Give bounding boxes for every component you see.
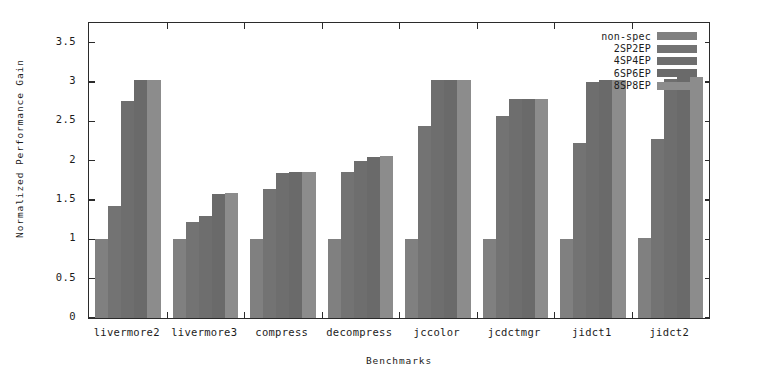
bar (664, 79, 677, 318)
y-tick-label: 2.5 (20, 113, 76, 125)
bar (483, 239, 496, 318)
y-tick-mark (705, 160, 709, 161)
legend-label: 2SP2EP (614, 43, 651, 54)
chart-legend: non-spec2SP2EP4SP4EP6SP6EP8SP8EP (597, 28, 701, 94)
x-tick-mark (167, 23, 168, 29)
legend-swatch (657, 45, 697, 53)
bar (509, 99, 522, 318)
y-tick-mark (89, 160, 95, 161)
legend-swatch (657, 32, 697, 40)
x-tick-mark (477, 23, 478, 29)
y-tick-mark (89, 81, 95, 82)
y-tick-mark (89, 199, 95, 200)
legend-swatch (657, 57, 697, 65)
bar (405, 239, 418, 318)
bar-group (405, 23, 470, 318)
bar (289, 172, 302, 318)
bar (276, 173, 289, 318)
y-tick-mark (705, 81, 709, 82)
x-tick-label: livermore2 (94, 326, 160, 338)
bar (444, 80, 457, 318)
y-tick-label: 1 (20, 231, 76, 243)
x-tick-mark (322, 23, 323, 29)
x-tick-label: jcdctmgr (488, 326, 541, 338)
y-tick-mark (705, 239, 709, 240)
bar (496, 116, 509, 318)
bar (522, 99, 535, 318)
x-tick-mark (244, 23, 245, 29)
bar (250, 239, 263, 318)
legend-label: non-spec (601, 31, 651, 42)
x-tick-label: jidct2 (649, 326, 689, 338)
bar (354, 161, 367, 318)
legend-item: 4SP4EP (601, 55, 697, 67)
bar (367, 157, 380, 318)
plot-area: non-spec2SP2EP4SP4EP6SP6EP8SP8EP (89, 23, 709, 318)
bar (431, 80, 444, 318)
bar (121, 101, 134, 318)
legend-label: 4SP4EP (614, 55, 651, 66)
bar (418, 126, 431, 318)
legend-item: 6SP6EP (601, 67, 697, 79)
y-tick-mark (705, 278, 709, 279)
y-tick-label: 3 (20, 74, 76, 86)
legend-item: non-spec (601, 30, 697, 42)
bar (147, 80, 160, 318)
x-tick-mark (399, 23, 400, 29)
x-tick-label: livermore3 (171, 326, 237, 338)
x-tick-label: jidct1 (572, 326, 612, 338)
bar (651, 139, 664, 318)
y-tick-label: 0.5 (20, 271, 76, 283)
bar (199, 216, 212, 318)
x-tick-mark (167, 312, 168, 318)
bar-group (328, 23, 393, 318)
y-tick-mark (89, 317, 95, 318)
bar (95, 239, 108, 318)
legend-label: 8SP8EP (614, 80, 651, 91)
bar-group (250, 23, 315, 318)
bar (535, 99, 548, 318)
y-tick-mark (705, 42, 709, 43)
y-tick-mark (705, 199, 709, 200)
bar (586, 82, 599, 318)
x-tick-mark (477, 312, 478, 318)
y-tick-mark (89, 278, 95, 279)
legend-label: 6SP6EP (614, 68, 651, 79)
bar (690, 77, 703, 318)
y-tick-mark (89, 121, 95, 122)
x-tick-label: decompress (326, 326, 392, 338)
bar (328, 239, 341, 318)
x-tick-mark (554, 312, 555, 318)
bar (134, 80, 147, 318)
bar (677, 77, 690, 318)
y-tick-label: 2 (20, 153, 76, 165)
x-tick-mark (632, 312, 633, 318)
y-tick-mark (705, 317, 709, 318)
bar (560, 239, 573, 318)
plot-frame: non-spec2SP2EP4SP4EP6SP6EP8SP8EP (88, 22, 710, 319)
y-tick-label: 1.5 (20, 192, 76, 204)
bar-group (95, 23, 160, 318)
x-tick-label: jccolor (414, 326, 460, 338)
legend-swatch (657, 82, 697, 90)
bar (599, 80, 612, 318)
x-tick-mark (554, 23, 555, 29)
bar (380, 156, 393, 318)
bar (638, 238, 651, 318)
bar (173, 239, 186, 318)
y-tick-label: 3.5 (20, 35, 76, 47)
legend-item: 2SP2EP (601, 42, 697, 54)
bar-chart-figure: Normalized Performance Gain Benchmarks n… (0, 0, 758, 389)
x-axis-label: Benchmarks (88, 355, 710, 366)
bar (341, 172, 354, 318)
bar (573, 143, 586, 318)
bar (212, 194, 225, 318)
bar (186, 222, 199, 318)
bar (612, 80, 625, 318)
bar (108, 206, 121, 318)
x-tick-label: compress (255, 326, 308, 338)
x-tick-mark (322, 312, 323, 318)
bar (263, 189, 276, 318)
legend-item: 8SP8EP (601, 80, 697, 92)
bar (225, 193, 238, 318)
